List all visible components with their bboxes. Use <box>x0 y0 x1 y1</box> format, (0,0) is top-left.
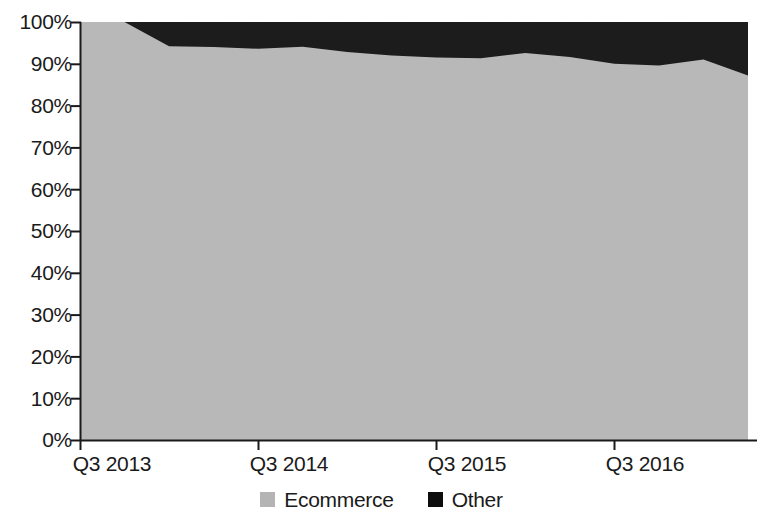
x-tick-label: Q3 2014 <box>250 452 328 476</box>
legend-swatch-icon <box>260 492 275 507</box>
legend-item-ecommerce[interactable]: Ecommerce <box>260 489 393 510</box>
legend-label: Other <box>452 489 503 510</box>
legend-label: Ecommerce <box>284 489 393 510</box>
stacked-area-chart: 100% 90% 80% 70% 60% 50% 40% 30% 20% 10%… <box>0 0 763 528</box>
x-tick-label: Q3 2013 <box>73 452 151 476</box>
chart-legend: Ecommerce Other <box>0 489 763 510</box>
legend-item-other[interactable]: Other <box>428 489 503 510</box>
x-axis-labels: Q3 2013 Q3 2014 Q3 2015 Q3 2016 <box>0 0 763 528</box>
legend-swatch-icon <box>428 492 443 507</box>
x-tick-label: Q3 2016 <box>606 452 684 476</box>
x-tick-label: Q3 2015 <box>428 452 506 476</box>
